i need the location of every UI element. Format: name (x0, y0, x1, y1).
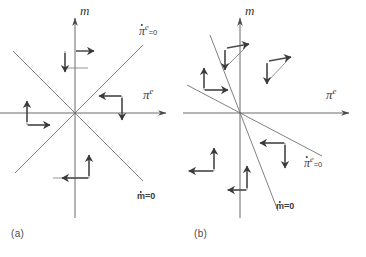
nullcline-m-dot-zero-a (13, 51, 143, 181)
nullcline-pi-dot-e-zero-a (15, 45, 143, 173)
nullcline-label-m-dot-zero-b: m=0 (276, 196, 294, 212)
field-arrow-pair-lower-left-b (188, 148, 214, 171)
panel-b-plot (183, 0, 366, 257)
caption-panel-a: (a) (11, 228, 24, 239)
nullcline-label-pi-dot-e-zero-b: πe=0 (304, 156, 322, 169)
panel-a-plot (0, 0, 183, 257)
axes-group-b (183, 18, 349, 218)
field-arrow-pair-south-a (53, 155, 89, 178)
nullcline-label-pi-dot-e-zero-a: πe=0 (139, 24, 157, 37)
arrow-right-upper-wedge-b (227, 44, 249, 48)
field-arrow-pair-north-a (65, 51, 94, 72)
nullcline-pi-dot-e-zero-b (187, 85, 322, 156)
axis-label-pi-e-a: πe (143, 87, 153, 101)
field-arrow-pair-upper-right-b (267, 57, 291, 84)
panel-b: m πe πe=0 m=0 (b) (183, 0, 366, 257)
axis-label-m-a: m (80, 4, 89, 17)
axis-label-pi-e-b: πe (326, 87, 336, 101)
field-arrow-pair-east-a (99, 96, 122, 120)
nullcline-m-dot-zero-b (210, 35, 278, 211)
field-arrow-pair-upper-wedge-b (225, 44, 249, 70)
nullcline-label-m-dot-zero-a: m=0 (137, 186, 155, 202)
phase-diagram-figure: m πe πe=0 m=0 (a) (0, 0, 366, 257)
caption-panel-b: (b) (194, 228, 207, 239)
arrow-right-upper-right-b (269, 57, 291, 61)
panel-a: m πe πe=0 m=0 (a) (0, 0, 183, 257)
field-arrow-pair-lower-right-b (260, 143, 285, 168)
axis-label-m-b: m (245, 4, 254, 17)
nullclines-group-b (187, 35, 322, 211)
field-arrow-pair-lower-middle-b (227, 166, 247, 190)
